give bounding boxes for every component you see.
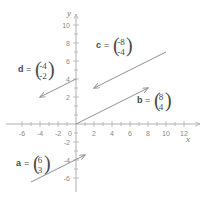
vector-d-x: -4: [39, 61, 47, 71]
vector-d-arrow: [40, 79, 76, 97]
vector-b-label: b = ( 8 4 ): [137, 89, 172, 112]
y-tick-label: 8: [66, 40, 70, 47]
y-tick-label: 2: [66, 94, 70, 101]
x-tick-label: 6: [128, 130, 132, 137]
vector-a-y: 3: [38, 165, 43, 175]
x-tick-label: -6: [19, 130, 25, 137]
x-axis-label: x: [185, 134, 190, 144]
vector-c-y: -4: [117, 47, 125, 57]
vector-b-equals: =: [145, 95, 150, 105]
vector-a-equals: =: [24, 158, 29, 168]
y-tick-labels: 10 8 6 4 2 -2 -4 -6: [62, 22, 70, 182]
y-tick-label: 6: [66, 58, 70, 65]
paren-close: ): [126, 34, 133, 57]
paren-close: ): [48, 58, 55, 81]
x-tick-label: 2: [92, 130, 96, 137]
vector-c-x: -8: [117, 37, 125, 47]
vector-a-name: a: [16, 158, 22, 168]
vector-a-x: 6: [38, 155, 43, 165]
vector-b-arrow: [76, 88, 148, 124]
y-tick-label: -2: [64, 139, 70, 146]
vector-c-arrow: [94, 52, 166, 88]
y-axis-label: y: [66, 8, 71, 18]
x-tick-label: -2: [55, 130, 61, 137]
vector-d-label: d = ( -4 -2 ): [18, 58, 55, 81]
vector-a-label: a = ( 6 3 ): [16, 152, 51, 175]
vector-c-name: c: [96, 40, 101, 50]
vector-c-equals: =: [104, 40, 109, 50]
x-tick-label: 8: [146, 130, 150, 137]
vector-d-name: d: [18, 64, 24, 74]
coordinate-plane-svg: -6 -4 -2 0 2 4 6 8 10 12 10 8 6 4 2 -2 -…: [0, 0, 208, 198]
vector-b-name: b: [137, 95, 143, 105]
vector-diagram: -6 -4 -2 0 2 4 6 8 10 12 10 8 6 4 2 -2 -…: [0, 0, 208, 198]
vector-d-equals: =: [26, 64, 31, 74]
y-tick-label: 10: [62, 22, 70, 29]
origin-label: 0: [68, 130, 72, 137]
x-tick-label: 4: [110, 130, 114, 137]
x-tick-labels: -6 -4 -2 0 2 4 6 8 10 12: [19, 130, 188, 137]
x-tick-label: 10: [162, 130, 170, 137]
vector-b-y: 4: [159, 102, 164, 112]
paren-close: ): [44, 152, 51, 175]
y-tick-label: -6: [64, 175, 70, 182]
vector-d-y: -2: [39, 71, 47, 81]
vector-c-label: c = ( -8 -4 ): [96, 34, 133, 57]
paren-close: ): [165, 89, 172, 112]
vector-b-x: 8: [159, 92, 164, 102]
x-tick-label: -4: [37, 130, 43, 137]
